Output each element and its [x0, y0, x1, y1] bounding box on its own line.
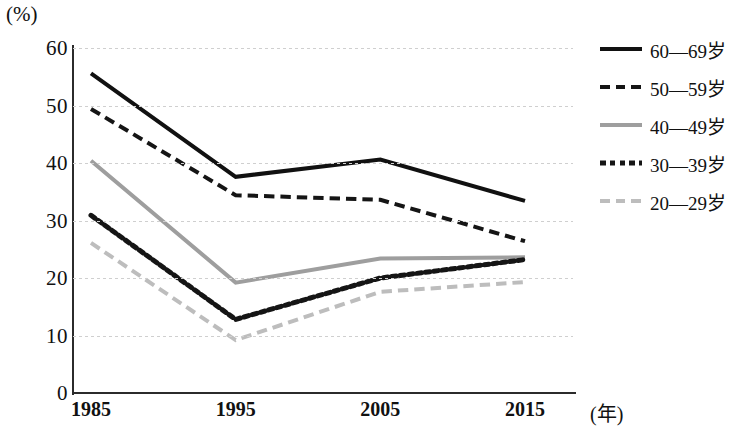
x-tick-2005: 2005 [360, 398, 400, 421]
series-line-0 [91, 73, 525, 201]
legend: 60—69岁50—59岁40—49岁30—39岁20—29岁 [600, 30, 744, 220]
legend-label: 40—49岁 [650, 112, 726, 139]
legend-label: 60—69岁 [650, 36, 726, 63]
y-tick-30: 30 [46, 208, 68, 233]
legend-item-0[interactable]: 60—69岁 [600, 30, 744, 68]
gridline-50 [73, 106, 573, 107]
line-chart: (%) 0102030405060 1985199520052015 (年) 6… [0, 0, 744, 430]
legend-label: 50—59岁 [650, 74, 726, 101]
legend-label: 30—39岁 [650, 150, 726, 177]
plot-area [73, 48, 573, 393]
legend-item-4[interactable]: 20—29岁 [600, 182, 744, 220]
gridline-30 [73, 221, 573, 222]
y-tick-40: 40 [46, 151, 68, 176]
gridline-20 [73, 278, 573, 279]
legend-item-3[interactable]: 30—39岁 [600, 144, 744, 182]
x-tick-1985: 1985 [71, 398, 111, 421]
x-axis-tick-labels: 1985199520052015 [73, 398, 573, 428]
series-line-3 [91, 215, 525, 319]
x-tick-2015: 2015 [505, 398, 545, 421]
y-tick-50: 50 [46, 93, 68, 118]
legend-item-2[interactable]: 40—49岁 [600, 106, 744, 144]
gridline-10 [73, 336, 573, 337]
x-tick-1995: 1995 [216, 398, 256, 421]
legend-item-1[interactable]: 50—59岁 [600, 68, 744, 106]
gridline-60 [73, 48, 573, 49]
y-axis-tick-labels: 0102030405060 [0, 0, 68, 430]
gridline-40 [73, 163, 573, 164]
y-tick-20: 20 [46, 266, 68, 291]
y-tick-10: 10 [46, 323, 68, 348]
x-axis-unit-label: (年) [590, 398, 623, 427]
y-tick-60: 60 [46, 36, 68, 61]
y-tick-0: 0 [57, 381, 68, 406]
legend-label: 20—29岁 [650, 188, 726, 215]
